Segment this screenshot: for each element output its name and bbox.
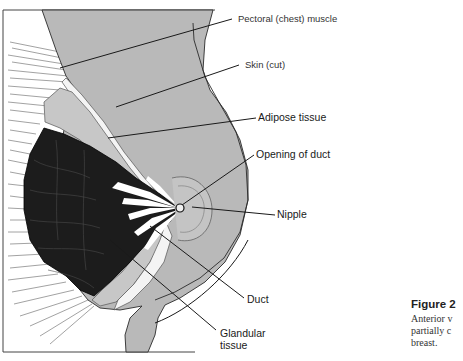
label-pectoral-muscle: Pectoral (chest) muscle (238, 14, 337, 24)
label-duct: Duct (247, 294, 269, 305)
label-glandular-line2: tissue (220, 340, 247, 351)
caption-title: Figure 2 (411, 298, 463, 310)
label-nipple: Nipple (277, 209, 307, 220)
label-glandular-line1: Glandular (220, 328, 266, 339)
nipple (176, 204, 184, 212)
breast-diagram (0, 0, 463, 361)
label-adipose-tissue: Adipose tissue (258, 112, 326, 123)
figure-caption: Figure 2 Anterior v partially c breast. (411, 298, 463, 349)
caption-line-2: partially c (411, 325, 463, 337)
label-skin-cut: Skin (cut) (245, 60, 285, 70)
caption-line-3: breast. (411, 337, 463, 349)
label-opening-of-duct: Opening of duct (256, 149, 330, 160)
anatomy-figure: Pectoral (chest) muscle Skin (cut) Adipo… (0, 0, 463, 361)
caption-line-1: Anterior v (411, 313, 463, 325)
